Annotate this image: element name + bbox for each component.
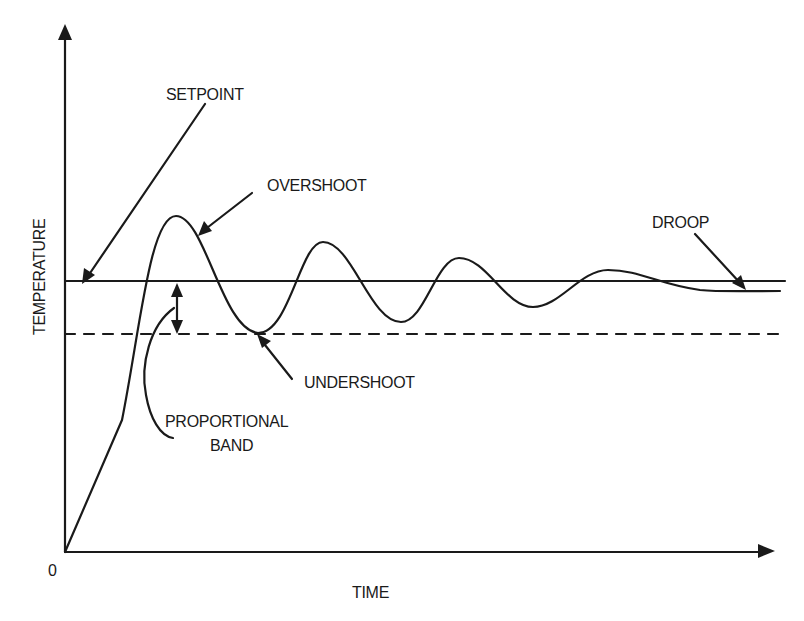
proportional-band-label-line2: BAND: [210, 437, 253, 454]
temperature-response-curve: [65, 216, 780, 552]
y-axis: [58, 24, 72, 552]
setpoint-label: SETPOINT: [166, 86, 244, 103]
origin-label: 0: [48, 562, 57, 579]
overshoot-label: OVERSHOOT: [267, 177, 367, 194]
x-axis: [65, 544, 775, 558]
y-axis-label: TEMPERATURE: [31, 219, 48, 335]
temperature-control-diagram: SETPOINT OVERSHOOT DROOP UNDERSHOOT PROP…: [0, 0, 804, 621]
overshoot-arrow: [198, 193, 252, 236]
droop-label: DROOP: [652, 214, 709, 231]
setpoint-arrow: [82, 104, 205, 284]
undershoot-label: UNDERSHOOT: [304, 374, 415, 391]
undershoot-arrow: [257, 334, 292, 379]
x-axis-label: TIME: [352, 584, 389, 601]
proportional-band-label-line1: PROPORTIONAL: [165, 413, 289, 430]
